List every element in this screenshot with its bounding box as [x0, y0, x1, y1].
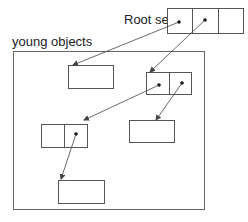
- root-set-box: [168, 9, 244, 34]
- object-b: [147, 73, 192, 95]
- arrow-b-to-d: [84, 85, 159, 120]
- object-a: [69, 66, 114, 89]
- object-e: [59, 181, 105, 204]
- object-d: [42, 125, 88, 148]
- gc-diagram: [0, 0, 248, 222]
- arrow-root-to-a: [73, 22, 179, 65]
- object-c: [130, 121, 175, 143]
